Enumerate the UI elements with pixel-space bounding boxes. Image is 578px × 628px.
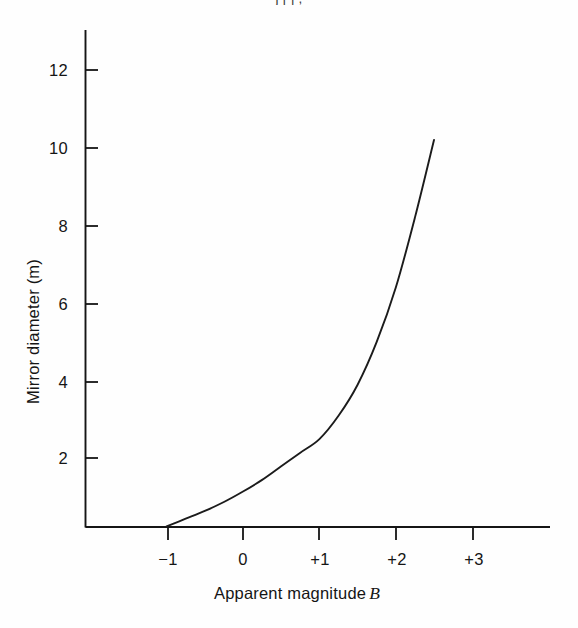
y-tick-label-12: 12 <box>36 61 68 80</box>
x-axis-ticks <box>168 527 473 540</box>
figure-panel: j [ ] , <box>0 0 578 628</box>
x-tick-label-minus-1: −1 <box>158 550 177 569</box>
x-tick-label-plus-3: +3 <box>464 550 483 569</box>
x-tick-label-plus-2: +2 <box>387 550 406 569</box>
y-tick-label-8: 8 <box>36 217 68 236</box>
y-tick-label-2: 2 <box>36 449 68 468</box>
y-axis-title: Mirror diameter (m) <box>24 259 43 404</box>
x-axis-title: Apparent magnitudeB <box>214 583 380 604</box>
data-curve-mirror-diameter <box>167 140 434 527</box>
x-tick-label-0: 0 <box>238 550 247 569</box>
y-axis-ticks <box>86 70 99 458</box>
chart-canvas <box>0 0 578 628</box>
x-axis-title-text: Apparent magnitude <box>214 584 366 602</box>
x-axis-title-symbol: B <box>366 583 380 603</box>
y-tick-label-10: 10 <box>36 139 68 158</box>
x-tick-label-plus-1: +1 <box>310 550 329 569</box>
